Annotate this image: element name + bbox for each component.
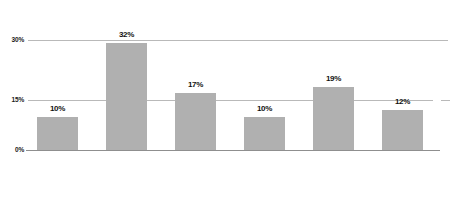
bar-track: 19% (304, 40, 372, 150)
bar-track: 12% (373, 40, 441, 150)
bar-track: 10% (28, 40, 96, 150)
bar-track: 10% (235, 40, 303, 150)
y-axis-tick-30: 30% (0, 37, 24, 44)
bar-bachelors-degree (313, 87, 354, 150)
bar-high-school-graduate-only (106, 43, 147, 150)
bar-chart: 30% 15% 0% 10% not a high school graduat… (0, 0, 454, 210)
bar-value-label: 32% (97, 31, 156, 39)
bar-not-a-high-school-graduate (37, 117, 78, 150)
bar-track: 32% (97, 40, 165, 150)
bar-graduate-degree (382, 110, 423, 150)
bar-value-label: 10% (28, 105, 87, 113)
bar-value-label: 19% (304, 75, 363, 83)
gridline-15-right-tick (441, 100, 450, 101)
bar-value-label: 12% (373, 98, 432, 106)
y-axis-tick-0: 0% (0, 147, 24, 154)
bar-track: 17% (166, 40, 234, 150)
plot-area: 30% 15% 0% 10% not a high school graduat… (0, 0, 454, 210)
y-axis-tick-15: 15% (0, 97, 24, 104)
bar-some-college-no-degree (175, 93, 216, 150)
bar-value-label: 10% (235, 105, 294, 113)
bar-series: 10% not a high school graduate 32% high … (28, 0, 440, 210)
bar-associates-degree (244, 117, 285, 150)
bar-value-label: 17% (166, 81, 225, 89)
